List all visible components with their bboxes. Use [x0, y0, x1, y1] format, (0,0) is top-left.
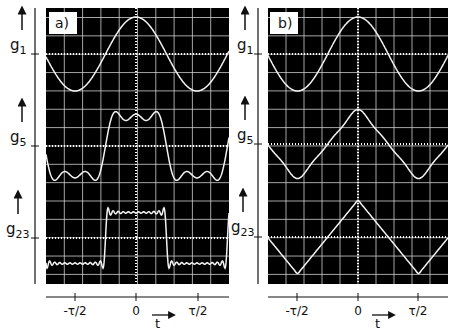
- time-tick-label: 0: [132, 304, 140, 318]
- panel-label-b: b): [278, 15, 292, 31]
- time-tick-label: -τ/2: [285, 304, 308, 318]
- panel-a: a) g1 g5 g23 -τ/2 0 τ/2 t: [6, 8, 229, 331]
- panel-b: b) g1 g5 g23 -τ/2 0 τ/2 t: [231, 8, 448, 331]
- time-tick-label: 0: [354, 304, 362, 318]
- time-axis-label: t: [375, 316, 380, 331]
- trace-label-g23-b: g23: [231, 218, 255, 239]
- trace-label-g1-a: g1: [10, 36, 27, 57]
- trace-label-g23-a: g23: [6, 220, 30, 241]
- trace-label-g5-a: g5: [10, 128, 27, 149]
- trace-label-g1-b: g1: [237, 36, 254, 57]
- panel-label-a: a): [55, 15, 69, 31]
- time-tick-label: τ/2: [409, 304, 428, 318]
- time-tick-label: -τ/2: [63, 304, 86, 318]
- trace-label-g5-b: g5: [237, 126, 254, 147]
- time-axis-label: t: [155, 316, 160, 331]
- fourier-synthesis-figure: a) g1 g5 g23 -τ/2 0 τ/2 t b) g1: [0, 0, 455, 331]
- time-tick-label: τ/2: [189, 304, 208, 318]
